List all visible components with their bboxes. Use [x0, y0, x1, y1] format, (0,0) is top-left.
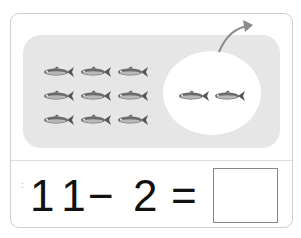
fish-icon [80, 64, 112, 76]
operator: − [88, 170, 114, 222]
fish-icon [80, 112, 112, 124]
fish-icon [178, 88, 210, 100]
fish-icon [117, 88, 149, 100]
answer-box[interactable] [213, 168, 278, 223]
fish-icon [43, 64, 75, 76]
divider [11, 160, 292, 161]
fish-icon [214, 88, 246, 100]
operand-2: 2 [133, 170, 157, 222]
fish-icon [43, 88, 75, 100]
marker: : [21, 180, 24, 190]
fish-icon [80, 88, 112, 100]
fish-icon [43, 112, 75, 124]
fish-icon [117, 112, 149, 124]
operand-1: 11 [30, 170, 96, 222]
arrow-icon [215, 18, 255, 54]
fish-icon [117, 64, 149, 76]
equals-sign: = [171, 170, 197, 222]
